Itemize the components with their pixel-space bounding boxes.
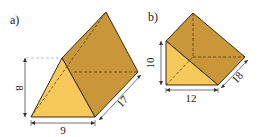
arrow-icon bbox=[91, 121, 95, 125]
arrow-icon bbox=[159, 41, 163, 45]
figure-a: a) 8 9 17 bbox=[10, 12, 141, 136]
arrow-icon bbox=[31, 121, 35, 125]
height-label: 8 bbox=[14, 85, 26, 91]
arrow-icon bbox=[23, 58, 27, 62]
figure-b-label: b) bbox=[148, 10, 158, 24]
prism-diagram: a) 8 9 17 b) 10 bbox=[0, 0, 263, 137]
arrow-icon bbox=[214, 88, 218, 92]
arrow-icon bbox=[166, 88, 170, 92]
figure-b: b) 10 12 18 bbox=[144, 10, 248, 104]
height-label: 10 bbox=[144, 57, 156, 69]
base-label: 9 bbox=[60, 124, 66, 136]
arrow-icon bbox=[159, 81, 163, 85]
base-label: 12 bbox=[186, 92, 197, 104]
arrow-icon bbox=[23, 113, 27, 117]
figure-a-label: a) bbox=[10, 13, 19, 27]
